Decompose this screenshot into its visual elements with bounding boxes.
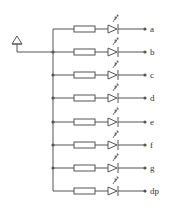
segment-label-d: d xyxy=(150,93,155,103)
segment-row-dp: dp xyxy=(53,177,160,196)
terminal-dot xyxy=(143,143,146,146)
resistor-icon xyxy=(74,142,95,148)
segment-label-dp: dp xyxy=(150,186,160,196)
led-diode-icon xyxy=(108,38,118,57)
led-diode-icon xyxy=(108,61,118,80)
segment-label-c: c xyxy=(150,70,154,80)
circuit-diagram: abcdefgdp xyxy=(0,0,171,212)
terminal-dot xyxy=(143,27,146,30)
segment-label-b: b xyxy=(150,47,155,57)
resistor-icon xyxy=(74,49,95,55)
resistor-icon xyxy=(74,188,95,194)
led-diode-icon xyxy=(108,108,118,127)
segment-row-a: a xyxy=(53,15,154,34)
segment-row-e: e xyxy=(51,108,154,127)
terminal-dot xyxy=(143,166,146,169)
led-diode-icon xyxy=(108,15,118,34)
terminal-dot xyxy=(143,96,146,99)
led-diode-icon xyxy=(108,177,118,196)
resistor-icon xyxy=(74,95,95,101)
segment-label-a: a xyxy=(150,24,154,34)
terminal-dot xyxy=(143,73,146,76)
terminal-dot xyxy=(143,50,146,53)
terminal-dot xyxy=(143,120,146,123)
led-diode-icon xyxy=(108,131,118,150)
resistor-icon xyxy=(74,165,95,171)
resistor-icon xyxy=(74,26,95,32)
segment-row-c: c xyxy=(51,61,154,80)
resistor-icon xyxy=(74,72,95,78)
segment-row-g: g xyxy=(51,154,155,173)
led-diode-icon xyxy=(108,84,118,103)
terminal-dot xyxy=(143,189,146,192)
segment-label-g: g xyxy=(150,163,155,173)
led-diode-icon xyxy=(108,154,118,173)
segment-row-f: f xyxy=(51,131,153,150)
segment-label-f: f xyxy=(150,140,153,150)
segment-row-b: b xyxy=(51,38,155,57)
segment-row-d: d xyxy=(51,84,155,103)
resistor-icon xyxy=(74,119,95,125)
segment-label-e: e xyxy=(150,117,154,127)
triangle-terminal-icon xyxy=(12,36,53,52)
